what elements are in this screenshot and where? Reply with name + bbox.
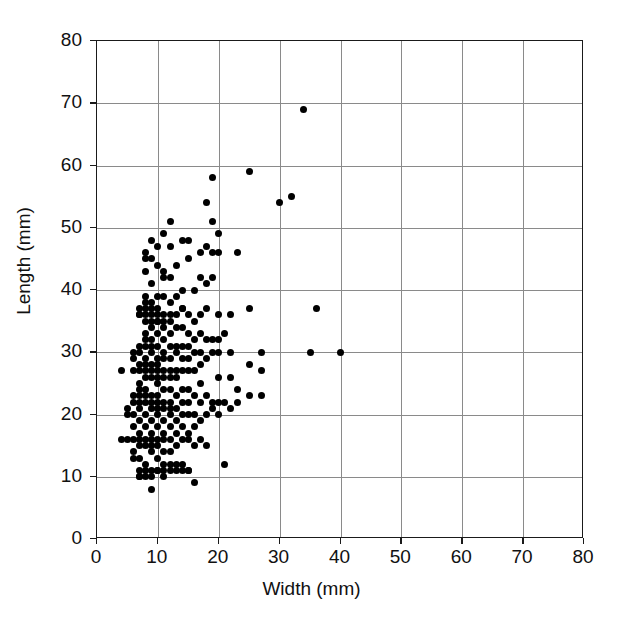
data-point (234, 399, 241, 406)
y-tick-mark (90, 102, 96, 103)
data-point (160, 230, 167, 237)
data-point (215, 349, 222, 356)
data-point (203, 305, 210, 312)
data-point (167, 318, 174, 325)
data-point (118, 367, 125, 374)
data-point (167, 448, 174, 455)
data-point (197, 436, 204, 443)
data-point (130, 423, 137, 430)
data-point (142, 423, 149, 430)
data-point (209, 218, 216, 225)
data-point (209, 274, 216, 281)
data-point (276, 199, 283, 206)
y-tick-label: 70 (26, 91, 82, 113)
data-point (167, 411, 174, 418)
data-point (300, 106, 307, 113)
y-tick-mark (90, 538, 96, 539)
y-tick-mark (90, 351, 96, 352)
x-tick-mark (340, 538, 341, 544)
data-point (130, 355, 137, 362)
plot-area (96, 40, 583, 538)
data-point (185, 237, 192, 244)
data-point (215, 374, 222, 381)
data-point (215, 311, 222, 318)
data-point (173, 417, 180, 424)
x-tick-label: 60 (431, 546, 491, 568)
data-point (227, 405, 234, 412)
data-point (191, 318, 198, 325)
data-point (185, 436, 192, 443)
data-point (185, 467, 192, 474)
data-point (167, 274, 174, 281)
data-point (167, 330, 174, 337)
data-point (191, 411, 198, 418)
data-point (197, 349, 204, 356)
data-point (191, 367, 198, 374)
data-point (154, 455, 161, 462)
x-tick-mark (583, 538, 584, 544)
data-point (215, 411, 222, 418)
data-point (191, 392, 198, 399)
data-point (136, 349, 143, 356)
y-tick-label: 80 (26, 29, 82, 51)
x-tick-mark (461, 538, 462, 544)
data-point (258, 392, 265, 399)
data-point (173, 293, 180, 300)
data-point (154, 343, 161, 350)
data-point (160, 417, 167, 424)
data-point (227, 311, 234, 318)
x-tick-label: 40 (310, 546, 370, 568)
data-point (160, 473, 167, 480)
data-point (185, 311, 192, 318)
x-tick-label: 30 (249, 546, 309, 568)
data-point (185, 399, 192, 406)
data-point (173, 430, 180, 437)
data-point (209, 174, 216, 181)
data-point (203, 243, 210, 250)
y-tick-mark (90, 476, 96, 477)
y-tick-mark (90, 165, 96, 166)
x-tick-mark (522, 538, 523, 544)
data-point (197, 311, 204, 318)
data-point (179, 324, 186, 331)
x-tick-mark (218, 538, 219, 544)
data-point (148, 473, 155, 480)
data-point (191, 287, 198, 294)
data-point (185, 386, 192, 393)
data-point (221, 461, 228, 468)
data-point (167, 355, 174, 362)
y-tick-label: 10 (26, 465, 82, 487)
y-tick-mark (90, 289, 96, 290)
data-point (167, 436, 174, 443)
data-point (136, 405, 143, 412)
data-point (167, 423, 174, 430)
data-point (154, 423, 161, 430)
data-point (130, 411, 137, 418)
x-tick-mark (157, 538, 158, 544)
scatter-plot-figure: 01020304050607080 01020304050607080 Widt… (0, 0, 623, 619)
data-point (167, 386, 174, 393)
data-point (148, 448, 155, 455)
data-point (234, 386, 241, 393)
data-point (203, 392, 210, 399)
data-point (179, 305, 186, 312)
data-point (215, 230, 222, 237)
data-point (185, 355, 192, 362)
data-point (173, 262, 180, 269)
y-tick-mark (90, 227, 96, 228)
data-point (148, 255, 155, 262)
x-tick-mark (400, 538, 401, 544)
data-point (173, 392, 180, 399)
data-point (185, 343, 192, 350)
data-point (197, 330, 204, 337)
x-tick-label: 50 (370, 546, 430, 568)
data-point (154, 262, 161, 269)
x-axis-title: Width (mm) (0, 578, 623, 600)
data-point (136, 455, 143, 462)
data-point (288, 193, 295, 200)
x-tick-label: 70 (492, 546, 552, 568)
y-tick-label: 20 (26, 403, 82, 425)
y-tick-mark (90, 40, 96, 41)
data-point (215, 249, 222, 256)
data-point (246, 361, 253, 368)
